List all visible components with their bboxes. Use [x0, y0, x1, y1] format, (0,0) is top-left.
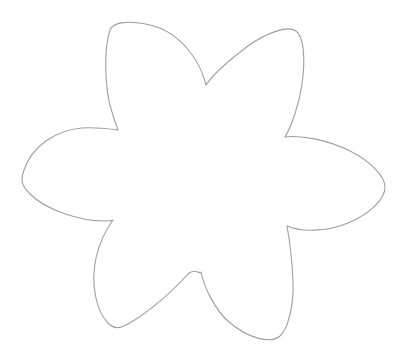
flower-illustration: Six petal flower outline [0, 0, 399, 356]
background-rect [0, 0, 399, 356]
artwork-canvas: Six Petal Flower Outline A simple six-pe… [0, 0, 399, 356]
